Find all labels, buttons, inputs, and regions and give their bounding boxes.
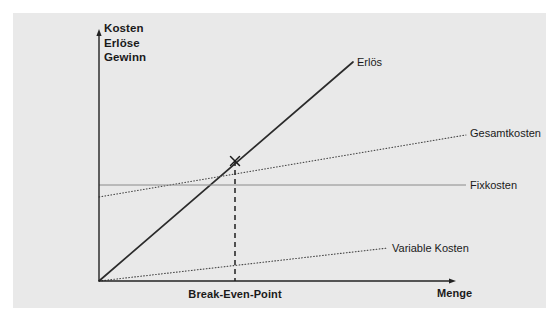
- variable-cost-line: [99, 248, 388, 281]
- y-axis-label-line-2: Erlöse: [104, 36, 146, 51]
- total-cost-line: [99, 135, 466, 197]
- revenue-line: [99, 62, 353, 281]
- figure-root: Kosten Erlöse Gewinn Erlös Gesamtkosten …: [0, 0, 560, 322]
- diagram-canvas: [0, 0, 560, 322]
- break-even-point-label: Break-Even-Point: [188, 287, 281, 301]
- x-axis-arrow-icon: [449, 278, 456, 283]
- y-axis-label-line-3: Gewinn: [104, 50, 146, 65]
- y-axis-label-line-1: Kosten: [104, 21, 146, 36]
- x-axis-label: Menge: [437, 286, 472, 300]
- y-axis-label: Kosten Erlöse Gewinn: [104, 21, 146, 65]
- total-cost-label: Gesamtkosten: [470, 126, 541, 140]
- y-axis-arrow-icon: [96, 29, 101, 36]
- fixed-cost-label: Fixkosten: [470, 178, 517, 192]
- variable-cost-label: Variable Kosten: [392, 241, 469, 255]
- revenue-label: Erlös: [357, 55, 382, 69]
